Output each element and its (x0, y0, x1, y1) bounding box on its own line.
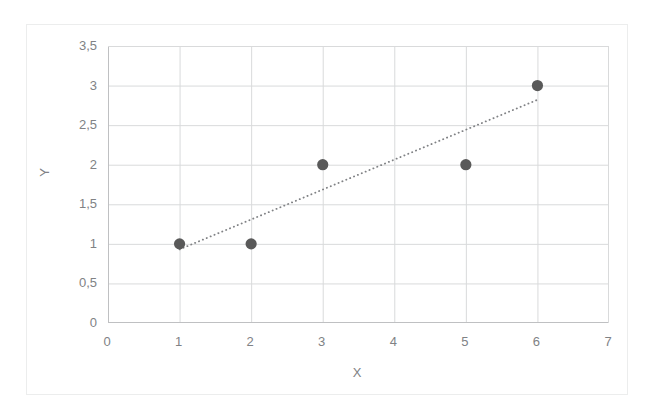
x-tick-label: 5 (461, 335, 468, 348)
x-axis-tick-labels: 01234567 (0, 0, 662, 416)
x-tick-label: 2 (247, 335, 254, 348)
x-tick-label: 3 (318, 335, 325, 348)
x-tick-label: 6 (533, 335, 540, 348)
x-tick-label: 0 (103, 335, 110, 348)
x-tick-label: 1 (175, 335, 182, 348)
x-axis-title: X (353, 365, 362, 380)
x-tick-label: 7 (604, 335, 611, 348)
x-tick-label: 4 (390, 335, 397, 348)
y-axis-title: Y (37, 168, 52, 177)
